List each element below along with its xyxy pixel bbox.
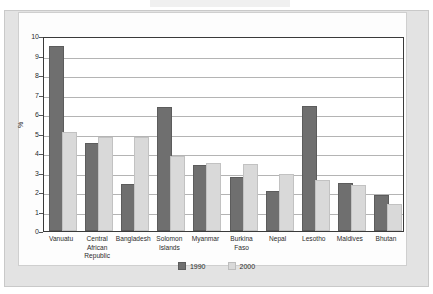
chart-legend: 19902000 [0, 262, 433, 270]
x-axis-label: Myanmar [187, 235, 223, 244]
x-axis-label: BurkinaFaso [224, 235, 260, 252]
plot-area [43, 37, 404, 232]
x-axis-label-line: Burkina [224, 235, 260, 244]
y-axis-tick-label: 1 [3, 209, 39, 217]
bar-vanuatu-2000 [62, 132, 77, 232]
x-axis-label-line: Nepal [260, 235, 296, 244]
legend-label: 1990 [190, 263, 206, 270]
y-axis-tick-mark [39, 232, 43, 233]
x-axis-label-line: Solomon [151, 235, 187, 244]
y-axis-tick-label: 5 [3, 131, 39, 139]
bar-solomon-islands-2000 [170, 156, 185, 231]
x-axis-label: Maldives [332, 235, 368, 244]
y-axis-tick-label: 6 [3, 111, 39, 119]
bar-group [157, 38, 183, 231]
x-axis-label: Bangladesh [115, 235, 151, 244]
bar-maldives-2000 [351, 185, 366, 231]
y-axis-tick-label: 0 [3, 228, 39, 236]
bar-myanmar-2000 [206, 163, 221, 231]
legend-swatch-2000 [228, 262, 236, 270]
bar-lesotho-2000 [315, 180, 330, 231]
x-axis-label: Bhutan [368, 235, 404, 244]
x-axis-label-line: Lesotho [296, 235, 332, 244]
y-axis-tick-label: 8 [3, 72, 39, 80]
x-axis-label: CentralAfricanRepublic [79, 235, 115, 261]
legend-label: 2000 [240, 263, 256, 270]
y-axis-tick-label: 2 [3, 189, 39, 197]
x-axis-label-line: Myanmar [187, 235, 223, 244]
y-axis-tick-label: 4 [3, 150, 39, 158]
bar-group [374, 38, 400, 231]
y-axis-tick-label: 7 [3, 92, 39, 100]
x-axis-label-line: Republic [79, 252, 115, 261]
x-axis-label: Lesotho [296, 235, 332, 244]
x-axis-label-line: African [79, 244, 115, 253]
legend-item-2000[interactable]: 2000 [228, 262, 256, 270]
x-axis-label-line: Vanuatu [43, 235, 79, 244]
x-axis-label-line: Faso [224, 244, 260, 253]
y-axis-title: % [17, 122, 24, 128]
scanned-page: 012345678910 % VanuatuCentralAfricanRepu… [0, 0, 433, 294]
bar-group [302, 38, 328, 231]
bar-group [85, 38, 111, 231]
bar-burkina-faso-2000 [243, 164, 258, 231]
y-axis-tick-label: 3 [3, 170, 39, 178]
bar-chart-figure: 012345678910 % VanuatuCentralAfricanRepu… [0, 0, 433, 294]
x-axis-label-line: Central [79, 235, 115, 244]
x-axis-label: Nepal [260, 235, 296, 244]
bar-group [338, 38, 364, 231]
bar-group [49, 38, 75, 231]
x-axis-label-line: Bangladesh [115, 235, 151, 244]
bar-nepal-2000 [279, 174, 294, 231]
bar-group [121, 38, 147, 231]
x-axis-label-line: Bhutan [368, 235, 404, 244]
bar-central-african-republic-2000 [98, 137, 113, 231]
bar-bhutan-2000 [387, 204, 402, 231]
bars-layer [44, 38, 403, 231]
bar-group [266, 38, 292, 231]
x-axis-label-line: Islands [151, 244, 187, 253]
y-axis: 012345678910 [0, 0, 39, 294]
y-axis-tick-label: 10 [3, 33, 39, 41]
x-axis-label: Vanuatu [43, 235, 79, 244]
x-axis-label-line: Maldives [332, 235, 368, 244]
legend-swatch-1990 [178, 262, 186, 270]
x-axis-label: SolomonIslands [151, 235, 187, 252]
bar-group [193, 38, 219, 231]
bar-bangladesh-2000 [134, 137, 149, 231]
bar-group [230, 38, 256, 231]
legend-item-1990[interactable]: 1990 [178, 262, 206, 270]
y-axis-tick-label: 9 [3, 53, 39, 61]
